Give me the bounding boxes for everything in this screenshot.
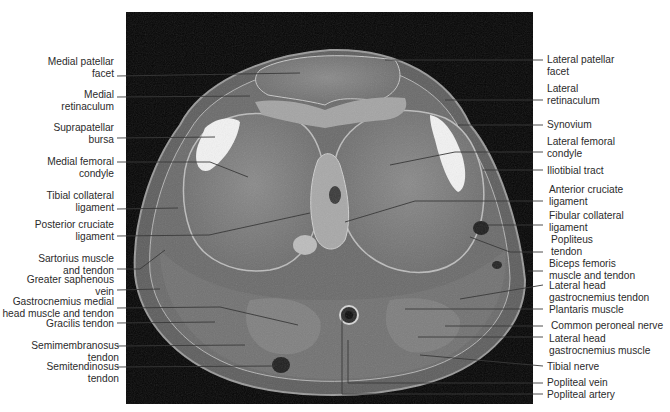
label-greater-saphenous-vein: Greater saphenous vein <box>27 274 114 297</box>
label-posterior-cruciate-ligament: Posterior cruciate ligament <box>35 219 114 242</box>
label-medial-retinaculum: Medial retinaculum <box>61 89 114 112</box>
label-synovium: Synovium <box>547 119 592 131</box>
knee-mri-figure: Medial patellar facet Medial retinaculum… <box>0 0 670 412</box>
label-lateral-head-gastrocnemius-muscle: Lateral head gastrocnemius muscle <box>549 333 650 356</box>
label-lateral-patellar-facet: Lateral patellar facet <box>547 54 614 77</box>
label-plantaris-muscle: Plantaris muscle <box>549 304 624 316</box>
label-popliteus-tendon: Popliteus tendon <box>551 234 593 257</box>
label-lateral-retinaculum: Lateral retinaculum <box>547 83 600 106</box>
label-lateral-head-gastrocnemius-tendon: Lateral head gastrocnemius tendon <box>549 280 649 303</box>
label-popliteal-vein: Popliteal vein <box>547 377 608 389</box>
label-tibial-collateral-ligament: Tibial collateral ligament <box>46 190 114 213</box>
label-suprapatellar-bursa: Suprapatellar bursa <box>53 122 114 145</box>
label-tibial-nerve: Tibial nerve <box>547 361 599 373</box>
label-lateral-femoral-condyle: Lateral femoral condyle <box>547 136 615 159</box>
label-semitendinosus-tendon: Semitendinosus tendon <box>47 361 120 384</box>
label-iliotibial-tract: Iliotibial tract <box>547 165 604 177</box>
label-gracilis-tendon: Gracilis tendon <box>46 318 114 330</box>
label-biceps-femoris: Biceps femoris muscle and tendon <box>549 258 635 281</box>
label-fibular-collateral-ligament: Fibular collateral ligament <box>549 210 624 233</box>
knee-cross-section <box>126 12 533 404</box>
label-sartorius-muscle-and-tendon: Sartorius muscle and tendon <box>38 253 114 276</box>
label-gastrocnemius-medial-head: Gastrocnemius medial head muscle and ten… <box>2 296 114 319</box>
label-anterior-cruciate-ligament: Anterior cruciate ligament <box>549 184 623 207</box>
label-popliteal-artery: Popliteal artery <box>547 389 615 401</box>
label-medial-patellar-facet: Medial patellar facet <box>48 56 114 79</box>
label-semimembranosus-tendon: Semimembranosus tendon <box>31 340 119 363</box>
mri-image <box>126 12 533 404</box>
label-common-peroneal-nerve: Common peroneal nerve <box>551 320 663 332</box>
label-medial-femoral-condyle: Medial femoral condyle <box>47 156 114 179</box>
